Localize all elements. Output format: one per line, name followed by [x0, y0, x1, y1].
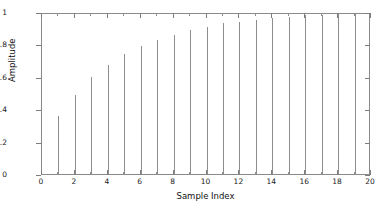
stem-bar [124, 54, 125, 174]
x-tick-label: 20 [365, 178, 375, 186]
x-tick-mark [206, 170, 207, 175]
x-tick-mark [41, 170, 42, 175]
y-tick-label: 1 [2, 9, 7, 17]
x-tick-label: 10 [201, 178, 211, 186]
x-minor-tick-mark [123, 172, 124, 175]
x-tick-label: 2 [72, 178, 77, 186]
x-tick-mark-top [173, 13, 174, 18]
x-minor-tick-mark-top [57, 13, 58, 16]
y-tick-label: 0.6 [0, 74, 7, 82]
stem-bar [223, 23, 224, 174]
x-tick-label: 16 [299, 178, 309, 186]
y-tick-label: 0.8 [0, 41, 7, 49]
x-minor-tick-mark [321, 172, 322, 175]
stem-bar [108, 65, 109, 174]
x-minor-tick-mark [57, 172, 58, 175]
x-tick-mark-top [337, 13, 338, 18]
x-tick-label: 8 [170, 178, 175, 186]
x-minor-tick-mark-top [222, 13, 223, 16]
y-tick-mark [36, 78, 41, 79]
x-tick-mark-top [140, 13, 141, 18]
x-tick-label: 6 [137, 178, 142, 186]
x-tick-mark [304, 170, 305, 175]
x-axis-title: Sample Index [41, 192, 370, 201]
x-tick-mark-top [74, 13, 75, 18]
x-minor-tick-mark [222, 172, 223, 175]
x-tick-mark-top [41, 13, 42, 18]
stem-bar [272, 18, 273, 174]
x-tick-mark [140, 170, 141, 175]
x-minor-tick-mark [189, 172, 190, 175]
x-tick-mark-top [107, 13, 108, 18]
stem-bar [174, 35, 175, 174]
stem-bar [305, 15, 306, 174]
y-tick-label: 0.4 [0, 106, 7, 114]
x-minor-tick-mark [156, 172, 157, 175]
stem-bar [256, 20, 257, 174]
x-minor-tick-mark-top [255, 13, 256, 16]
x-minor-tick-mark [90, 172, 91, 175]
x-minor-tick-mark-top [354, 13, 355, 16]
x-tick-mark-top [304, 13, 305, 18]
x-minor-tick-mark-top [321, 13, 322, 16]
y-tick-mark-right [365, 143, 370, 144]
x-tick-label: 0 [39, 178, 44, 186]
x-tick-mark [337, 170, 338, 175]
stem-bar [338, 14, 339, 174]
x-tick-mark [238, 170, 239, 175]
chart-figure: Sample Index Amplitude 00.20.40.60.81024… [0, 0, 381, 211]
stem-bar [190, 30, 191, 174]
stem-bar [91, 77, 92, 174]
stem-bar [239, 22, 240, 174]
stem-bar [141, 46, 142, 174]
x-tick-label: 12 [234, 178, 244, 186]
stem-bar [58, 116, 59, 174]
y-tick-mark [36, 110, 41, 111]
y-tick-label: 0.2 [0, 139, 7, 147]
stem-bar [355, 14, 356, 174]
x-minor-tick-mark-top [123, 13, 124, 16]
x-tick-label: 18 [332, 178, 342, 186]
y-tick-mark [36, 143, 41, 144]
x-tick-mark [370, 170, 371, 175]
x-tick-label: 4 [104, 178, 109, 186]
x-minor-tick-mark [288, 172, 289, 175]
y-tick-mark [36, 175, 41, 176]
y-tick-mark-right [365, 78, 370, 79]
x-tick-mark [173, 170, 174, 175]
stem-bar [322, 15, 323, 174]
x-minor-tick-mark-top [90, 13, 91, 16]
y-tick-mark-right [365, 45, 370, 46]
stem-bar [289, 17, 290, 174]
y-tick-mark-right [365, 110, 370, 111]
x-minor-tick-mark-top [288, 13, 289, 16]
x-tick-mark-top [271, 13, 272, 18]
plot-area [41, 13, 370, 175]
x-tick-mark [107, 170, 108, 175]
x-minor-tick-mark-top [189, 13, 190, 16]
y-tick-mark-right [365, 175, 370, 176]
x-tick-mark-top [238, 13, 239, 18]
x-minor-tick-mark [255, 172, 256, 175]
stem-series [42, 14, 369, 174]
y-axis-title: Amplitude [8, 20, 17, 100]
stem-bar [157, 40, 158, 174]
stem-bar [207, 27, 208, 174]
x-tick-mark [74, 170, 75, 175]
x-tick-mark-top [370, 13, 371, 18]
x-tick-label: 14 [267, 178, 277, 186]
x-tick-mark [271, 170, 272, 175]
y-tick-label: 0 [2, 171, 7, 179]
x-minor-tick-mark-top [156, 13, 157, 16]
y-tick-mark [36, 45, 41, 46]
x-minor-tick-mark [354, 172, 355, 175]
x-tick-mark-top [206, 13, 207, 18]
stem-bar [75, 95, 76, 174]
